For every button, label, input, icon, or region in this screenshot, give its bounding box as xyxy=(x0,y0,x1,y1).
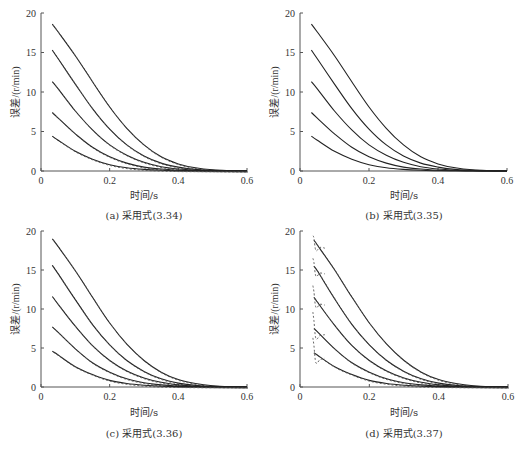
y-axis-label: 误差/(r/min) xyxy=(268,283,281,334)
series-line xyxy=(314,240,508,387)
y-tick-label: 0 xyxy=(290,382,295,393)
x-tick-label: 0 xyxy=(298,391,303,402)
y-tick-label: 10 xyxy=(285,304,295,315)
series-initial-spike xyxy=(313,236,325,251)
y-tick-label: 15 xyxy=(285,265,295,276)
chart-d: 0510152000.20.40.6误差/(r/min) xyxy=(0,0,521,450)
y-tick-label: 5 xyxy=(290,343,295,354)
series-line xyxy=(314,353,508,387)
series-initial-spike xyxy=(313,312,325,339)
axes-d xyxy=(300,231,508,387)
x-axis-label: 时间/s xyxy=(274,404,521,419)
x-tick-label: 0.4 xyxy=(432,391,445,402)
series-line xyxy=(314,329,508,388)
x-tick-label: 0.2 xyxy=(363,391,376,402)
series-reference-dashed xyxy=(315,298,509,388)
subfigure-caption: (d) 采用式(3.37) xyxy=(274,425,521,440)
x-tick-label: 0.6 xyxy=(502,391,515,402)
series-reference-dashed xyxy=(315,329,509,388)
series-line xyxy=(314,266,508,387)
y-tick-label: 20 xyxy=(285,226,295,237)
